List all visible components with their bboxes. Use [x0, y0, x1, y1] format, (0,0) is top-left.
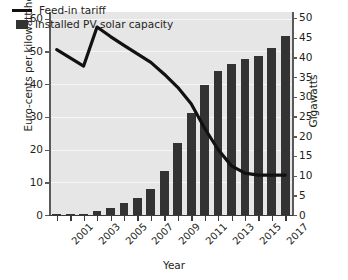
y-axis-left-tick	[45, 215, 49, 216]
y-axis-right-tick	[293, 77, 297, 78]
x-axis-tick-label: 2017	[284, 221, 310, 247]
y-axis-right-tick	[293, 18, 297, 19]
x-axis-tick	[57, 216, 58, 221]
square-marker-icon	[16, 20, 28, 29]
x-axis-tick	[151, 216, 152, 221]
y-axis-right-tick	[293, 136, 297, 137]
x-axis-tick	[178, 216, 179, 221]
y-axis-right-tick	[293, 215, 297, 216]
x-axis-tick-label: 2015	[257, 221, 283, 247]
y-axis-right-tick-label: 25	[299, 111, 312, 122]
y-axis-right-tick	[293, 176, 297, 177]
y-axis-left-tick-label: 40	[30, 79, 43, 90]
y-axis-right-tick-label: 5	[299, 190, 306, 201]
x-axis-spine	[49, 215, 294, 217]
y-axis-left-tick-label: 20	[30, 144, 43, 155]
x-axis-tick	[124, 216, 125, 221]
x-axis-tick	[191, 216, 192, 221]
y-axis-right-tick	[293, 156, 297, 157]
x-axis-tick	[218, 216, 219, 221]
y-axis-right-tick-label: 15	[299, 150, 312, 161]
y-axis-right-tick-label: 40	[299, 52, 312, 63]
y-axis-left-tick-label: 30	[30, 111, 43, 122]
x-axis-tick	[84, 216, 85, 221]
x-axis-tick	[205, 216, 206, 221]
legend-item-installed-pv-solar-capacity: Installed PV solar capacity	[12, 18, 173, 31]
y-axis-left-tick	[45, 117, 49, 118]
y-axis-left-tick-label: 0	[36, 210, 43, 221]
x-axis-tick	[70, 216, 71, 221]
y-axis-right-tick-label: 50	[299, 12, 312, 23]
chart-figure: Euro-cents per kilowatt-hour Gigawatts Y…	[0, 0, 348, 280]
x-axis-tick-label: 2001	[69, 221, 95, 247]
x-axis-tick-label: 2003	[96, 221, 122, 247]
line-series	[50, 12, 292, 215]
y-axis-left-tick	[45, 150, 49, 151]
x-axis-title: Year	[0, 259, 348, 271]
y-axis-left-tick-label: 50	[30, 46, 43, 57]
x-axis-tick	[258, 216, 259, 221]
y-axis-left-tick	[45, 51, 49, 52]
y-axis-left-tick	[45, 182, 49, 183]
y-axis-left-tick	[45, 84, 49, 85]
y-axis-right-tick-label: 20	[299, 131, 312, 142]
y-axis-right-tick	[293, 97, 297, 98]
y-axis-right-tick-label: 10	[299, 170, 312, 181]
legend: Feed-in tariff Installed PV solar capaci…	[12, 4, 173, 32]
y-axis-right-tick	[293, 57, 297, 58]
x-axis-tick	[164, 216, 165, 221]
x-axis-tick-label: 2009	[177, 221, 203, 247]
y-axis-right-tick-label: 45	[299, 32, 312, 43]
y-axis-right-tick-label: 30	[299, 91, 312, 102]
feed-in-tariff-line	[57, 27, 286, 175]
y-axis-right-tick-label: 35	[299, 72, 312, 83]
legend-label: Feed-in tariff	[39, 4, 106, 17]
x-axis-tick-label: 2007	[150, 221, 176, 247]
x-axis-tick-label: 2005	[123, 221, 149, 247]
y-axis-left-tick-label: 10	[30, 177, 43, 188]
x-axis-tick	[137, 216, 138, 221]
plot-area	[50, 12, 292, 215]
x-axis-tick	[285, 216, 286, 221]
x-axis-tick	[245, 216, 246, 221]
x-axis-tick-label: 2013	[231, 221, 257, 247]
x-axis-tick	[272, 216, 273, 221]
x-axis-tick	[232, 216, 233, 221]
legend-label: Installed PV solar capacity	[35, 18, 173, 31]
x-axis-tick-label: 2011	[204, 221, 230, 247]
y-axis-right-spine	[292, 12, 294, 216]
legend-item-feed-in-tariff: Feed-in tariff	[12, 4, 173, 17]
line-marker-icon	[12, 9, 32, 12]
y-axis-right-tick	[293, 195, 297, 196]
x-axis-tick	[111, 216, 112, 221]
y-axis-right-tick	[293, 38, 297, 39]
y-axis-right-tick-label: 0	[299, 210, 306, 221]
y-axis-left-spine	[49, 12, 51, 216]
y-axis-right-tick	[293, 116, 297, 117]
x-axis-tick	[97, 216, 98, 221]
